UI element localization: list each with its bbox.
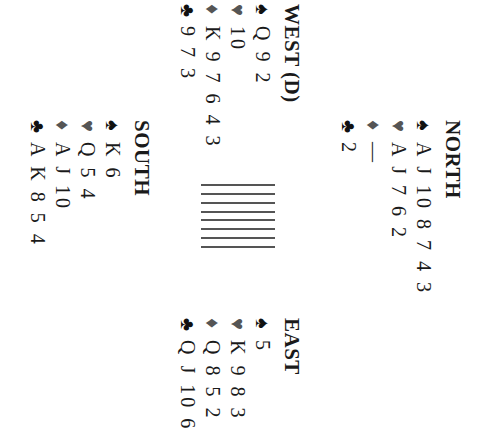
east-spades-cards: 5 [250,340,275,353]
west-title: WEST (D) [279,4,305,148]
diamond-icon: ♦ [361,120,386,142]
west-spades-cards: Q 9 2 [250,26,275,85]
west-clubs-cards: 9 7 3 [175,26,200,81]
east-hearts-cards: K 9 8 3 [225,340,250,420]
east-diamonds: ♦ Q 8 5 2 [200,318,225,431]
diamond-icon: ♦ [200,318,225,340]
south-title: SOUTH [129,120,155,247]
south-hearts: ♥ Q 5 4 [75,120,100,247]
east-hearts: ♥ K 9 8 3 [225,318,250,431]
north-hearts: ♥ A J 7 6 2 [386,120,411,295]
table-line [201,237,275,239]
heart-icon: ♥ [225,4,250,26]
table-line [201,193,275,195]
south-clubs: ♣ A K 8 5 4 [25,120,50,247]
west-hand: WEST (D) ♠ Q 9 2 ♥ 10 ♦ K 9 7 6 4 3 ♣ 9 … [175,4,305,148]
south-diamonds: ♦ A J 10 [50,120,75,247]
spade-icon: ♠ [411,120,436,142]
table-graphic [201,184,275,248]
south-hand: SOUTH ♠ K 6 ♥ Q 5 4 ♦ A J 10 ♣ A K 8 5 4 [25,120,155,247]
east-clubs-cards: Q J 10 6 [175,340,200,431]
east-hand: EAST ♠ 5 ♥ K 9 8 3 ♦ Q 8 5 2 ♣ Q J 10 6 [175,318,305,431]
table-line [201,184,275,186]
west-clubs: ♣ 9 7 3 [175,4,200,148]
spade-icon: ♠ [250,318,275,340]
table-line [201,211,275,213]
club-icon: ♣ [25,120,50,142]
south-hearts-cards: Q 5 4 [75,142,100,201]
north-spades-cards: A J 10 8 7 4 3 [411,142,436,295]
north-title: NORTH [440,120,466,295]
west-diamonds-cards: K 9 7 6 4 3 [200,26,225,148]
north-clubs: ♣ 2 [336,120,361,295]
diamond-icon: ♦ [50,120,75,142]
club-icon: ♣ [336,120,361,142]
south-spades-cards: K 6 [100,142,125,180]
table-line [201,246,275,248]
diamond-icon: ♦ [200,4,225,26]
east-diamonds-cards: Q 8 5 2 [200,340,225,420]
north-spades: ♠ A J 10 8 7 4 3 [411,120,436,295]
table-line [201,202,275,204]
east-title: EAST [279,318,305,431]
west-hearts-cards: 10 [225,26,250,52]
heart-icon: ♥ [386,120,411,142]
west-diamonds: ♦ K 9 7 6 4 3 [200,4,225,148]
heart-icon: ♥ [75,120,100,142]
west-hearts: ♥ 10 [225,4,250,148]
club-icon: ♣ [175,318,200,340]
heart-icon: ♥ [225,318,250,340]
north-clubs-cards: 2 [336,142,361,155]
north-hand: NORTH ♠ A J 10 8 7 4 3 ♥ A J 7 6 2 ♦ — ♣… [336,120,466,295]
south-spades: ♠ K 6 [100,120,125,247]
south-clubs-cards: A K 8 5 4 [25,142,50,247]
table-line [201,228,275,230]
west-spades: ♠ Q 9 2 [250,4,275,148]
north-hearts-cards: A J 7 6 2 [386,142,411,240]
spade-icon: ♠ [250,4,275,26]
north-diamonds: ♦ — [361,120,386,295]
club-icon: ♣ [175,4,200,26]
east-spades: ♠ 5 [250,318,275,431]
spade-icon: ♠ [100,120,125,142]
east-clubs: ♣ Q J 10 6 [175,318,200,431]
south-diamonds-cards: A J 10 [50,142,75,211]
table-line [201,219,275,221]
north-diamonds-cards: — [361,142,386,165]
